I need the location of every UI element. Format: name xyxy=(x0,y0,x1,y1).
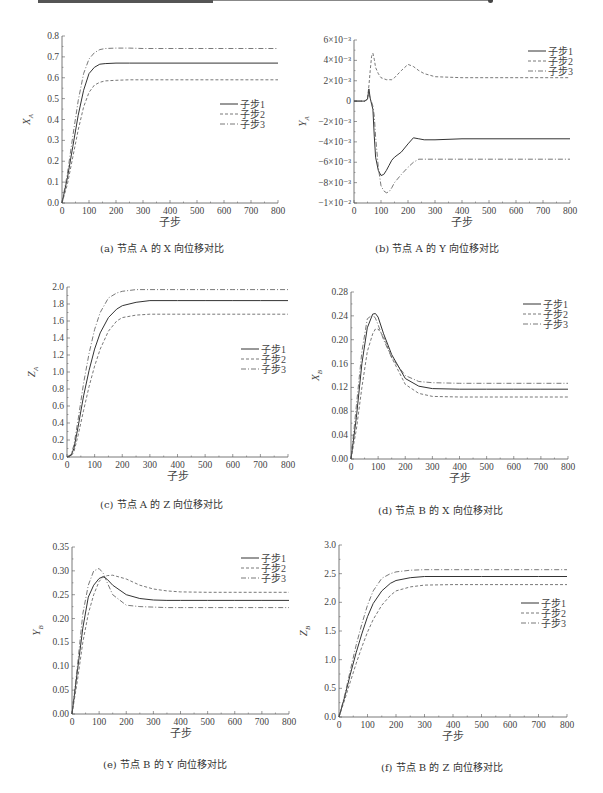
y-tick-label: 1.0 xyxy=(324,655,336,665)
chart-panel-f: 01002003004005006007008000.00.51.01.52.0… xyxy=(0,0,603,793)
y-tick-label: 2.0 xyxy=(324,597,336,607)
x-tick-label: 0 xyxy=(337,720,342,730)
x-axis-label: 子步 xyxy=(442,730,464,742)
x-tick-label: 500 xyxy=(474,720,489,730)
x-tick-label: 300 xyxy=(417,720,432,730)
x-tick-label: 600 xyxy=(503,720,518,730)
x-tick-label: 700 xyxy=(531,720,546,730)
y-tick-label: 0.0 xyxy=(324,712,336,722)
y-tick-label: 1.5 xyxy=(324,626,336,636)
legend: 子步1子步2子步3 xyxy=(521,598,566,629)
chart-caption-f: (f) 节点 B 的 Z 向位移对比 xyxy=(381,759,503,774)
x-tick-label: 200 xyxy=(389,720,404,730)
y-tick-label: 3.0 xyxy=(324,540,336,550)
y-tick-label: 0.5 xyxy=(324,683,336,693)
y-axis-label: ZB xyxy=(297,625,312,636)
x-tick-label: 400 xyxy=(446,720,461,730)
legend-label-3: 子步3 xyxy=(541,618,566,629)
x-tick-label: 100 xyxy=(360,720,375,730)
y-tick-label: 2.5 xyxy=(324,569,336,579)
x-tick-label: 800 xyxy=(560,720,575,730)
series-line-1 xyxy=(339,577,567,718)
series-line-3 xyxy=(339,570,567,717)
axes: 01002003004005006007008000.00.51.01.52.0… xyxy=(297,540,574,742)
